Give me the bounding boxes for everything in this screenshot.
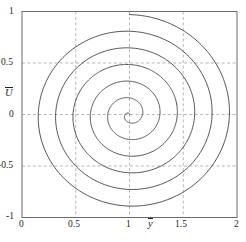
y-axis-title-text: U [5, 88, 13, 99]
x-tick-label-0: 0 [19, 220, 24, 230]
x-tick-label-2: 2 [234, 220, 239, 230]
y-tick-label--1: -1 [6, 212, 14, 222]
y-tick-label-0: 0 [9, 110, 14, 120]
figure-spiral-plot: 1 0.5 0 -0.5 -1 0 0.5 1 1.5 2 U y [0, 0, 246, 242]
x-tick-label-1: 1 [126, 220, 131, 230]
x-axis-title-text: y [148, 219, 153, 230]
x-tick-label-1.5: 1.5 [175, 220, 187, 230]
spiral-curve [38, 15, 229, 207]
y-tick-label--0.5: -0.5 [0, 161, 13, 171]
plot-canvas [0, 0, 246, 242]
y-axis-title: U [5, 88, 13, 99]
x-axis-title: y [148, 219, 153, 230]
y-tick-label-1: 1 [9, 7, 14, 17]
x-tick-label-0.5: 0.5 [68, 220, 80, 230]
y-tick-label-0.5: 0.5 [1, 58, 13, 68]
